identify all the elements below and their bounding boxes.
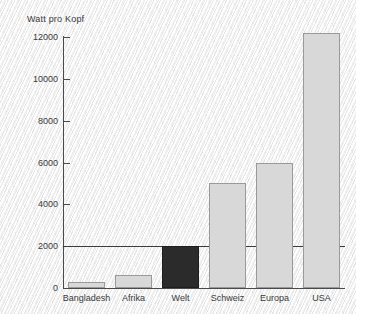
y-axis-tick-label: 12000 (14, 32, 58, 42)
y-axis-tick (64, 79, 70, 80)
bar-bangladesh (68, 282, 106, 288)
x-axis-label-bangladesh: Bangladesh (63, 293, 111, 303)
y-axis-tick-label: 10000 (14, 74, 58, 84)
x-axis-label-usa: USA (312, 293, 331, 303)
bar-schweiz (209, 183, 247, 288)
chart-figure: Watt pro Kopf 02000400060008000100001200… (0, 0, 356, 314)
bar-afrika (115, 275, 153, 288)
x-axis-line (63, 288, 345, 289)
y-axis-tick (64, 121, 70, 122)
y-axis-tick-label: 6000 (14, 158, 58, 168)
y-axis-tick (64, 37, 70, 38)
bar-welt (162, 246, 200, 288)
y-axis-tick-label: 4000 (14, 199, 58, 209)
y-axis-tick-label: 8000 (14, 116, 58, 126)
y-axis-tick-label: 0 (14, 283, 58, 293)
x-axis-label-europa: Europa (260, 293, 289, 303)
y-axis-tick (64, 204, 70, 205)
bar-usa (303, 33, 341, 288)
bar-europa (256, 163, 294, 289)
y-axis-tick-label: 2000 (14, 241, 58, 251)
x-axis-label-schweiz: Schweiz (211, 293, 245, 303)
x-axis-label-afrika: Afrika (122, 293, 145, 303)
x-axis-label-welt: Welt (172, 293, 190, 303)
y-axis-title: Watt pro Kopf (27, 14, 84, 24)
y-axis-tick (64, 288, 70, 289)
y-axis-tick (64, 163, 70, 164)
